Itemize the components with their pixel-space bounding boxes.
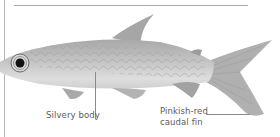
fin-leader-line [206,114,250,115]
caudal-fin [206,40,272,116]
pectoral-fin [62,88,84,99]
fish-illustration [0,0,280,137]
pelvic-fin [112,88,146,99]
caudal-fin-label-line1: Pinkish-red [160,106,208,117]
anal-fin [172,82,200,98]
caudal-fin-label-line2: caudal fin [160,117,208,128]
caudal-fin-label: Pinkish-red caudal fin [160,106,208,128]
silvery-body-label: Silvery body [46,110,100,121]
figure-frame: Silvery body Pinkish-red caudal fin [0,0,280,137]
